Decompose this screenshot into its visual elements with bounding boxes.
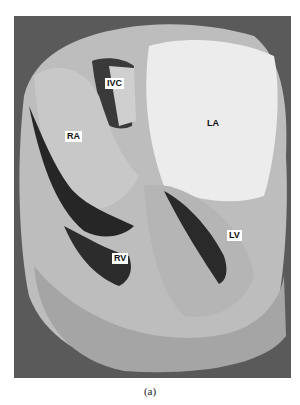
label-ra: RA <box>65 131 82 142</box>
heart-illustration <box>14 16 291 378</box>
label-la: LA <box>205 118 221 129</box>
label-rv: RV <box>112 253 128 264</box>
heart-specimen-photo: IVC RA LA LV RV <box>14 16 291 378</box>
figure-caption: (a) <box>0 385 300 397</box>
label-lv: LV <box>227 230 242 241</box>
label-ivc: IVC <box>105 78 124 89</box>
